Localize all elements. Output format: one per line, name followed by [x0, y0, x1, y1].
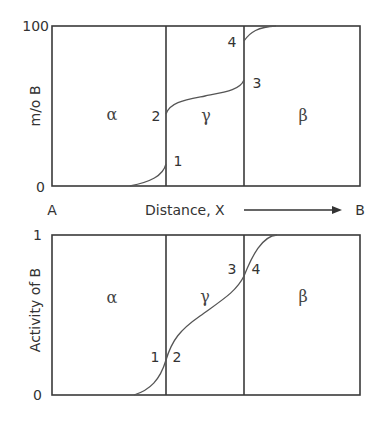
- bottom-phase-alpha: α: [107, 288, 118, 307]
- top-point-3: 3: [253, 75, 262, 91]
- bottom-y-axis-label: Activity of B: [27, 268, 43, 352]
- x-axis-end-a: A: [47, 202, 57, 218]
- bottom-y-tick-0: 0: [33, 387, 42, 403]
- top-y-tick-100: 100: [22, 18, 49, 34]
- bottom-phase-beta: β: [298, 287, 307, 306]
- top-phase-beta: β: [298, 106, 307, 125]
- x-axis-end-b: B: [355, 202, 365, 218]
- top-phase-alpha: α: [107, 105, 118, 124]
- bottom-phase-gamma: γ: [200, 287, 210, 306]
- top-point-1: 1: [174, 153, 183, 169]
- bottom-panel-frame: [52, 235, 360, 395]
- bottom-point-3: 3: [228, 261, 237, 277]
- top-point-2: 2: [152, 108, 161, 124]
- top-panel-composition: 100 0 m/o B α γ β 1 2 3 4: [22, 18, 360, 195]
- bottom-point-4: 4: [252, 261, 261, 277]
- bottom-activity-curve: [134, 235, 277, 395]
- top-alpha-profile-curve: [130, 164, 166, 186]
- distance-axis: A Distance, X B: [47, 202, 365, 218]
- bottom-y-tick-1: 1: [33, 227, 42, 243]
- bottom-panel-activity: 1 0 Activity of B α γ β 1 2 3 4: [27, 227, 360, 403]
- top-point-4: 4: [228, 34, 237, 50]
- diffusion-couple-diagram: 100 0 m/o B α γ β 1 2 3 4 A Distance, X …: [0, 0, 378, 428]
- bottom-point-1: 1: [151, 349, 160, 365]
- distance-arrow-head-icon: [332, 206, 342, 214]
- bottom-point-2: 2: [173, 349, 182, 365]
- top-phase-gamma: γ: [201, 106, 211, 125]
- top-y-axis-label: m/o B: [27, 86, 43, 127]
- top-y-tick-0: 0: [36, 179, 45, 195]
- top-beta-profile-curve: [244, 26, 276, 41]
- x-axis-label: Distance, X: [145, 202, 225, 218]
